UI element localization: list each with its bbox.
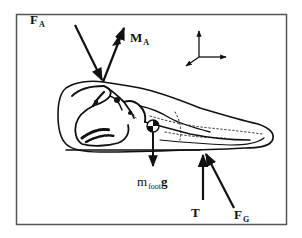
ankle-moment-arrow — [103, 28, 124, 82]
coordinate-axes-icon — [186, 31, 226, 66]
foot-outline — [58, 81, 273, 152]
ankle-force-arrow — [75, 25, 102, 80]
label-subscript: G — [243, 215, 249, 224]
label-main: M — [130, 30, 142, 45]
label-main: F — [234, 207, 242, 222]
ankle-moment-label: MA — [130, 29, 149, 47]
label-tail: g — [161, 174, 168, 189]
label-subscript: A — [39, 20, 45, 29]
tendon-force-label: T — [191, 204, 200, 220]
ground-force-label: FG — [234, 206, 249, 224]
ground-force-arrow — [206, 154, 234, 208]
label-main: T — [191, 205, 200, 220]
center-of-mass-icon — [147, 120, 159, 132]
label-subscript: foot — [148, 182, 161, 191]
weight-label: mfootg — [137, 173, 168, 191]
label-main: F — [30, 12, 38, 27]
label-main: m — [137, 174, 147, 189]
ankle-force-label: FA — [30, 11, 45, 29]
foot-free-body-diagram — [0, 0, 302, 238]
label-subscript: A — [143, 38, 149, 47]
